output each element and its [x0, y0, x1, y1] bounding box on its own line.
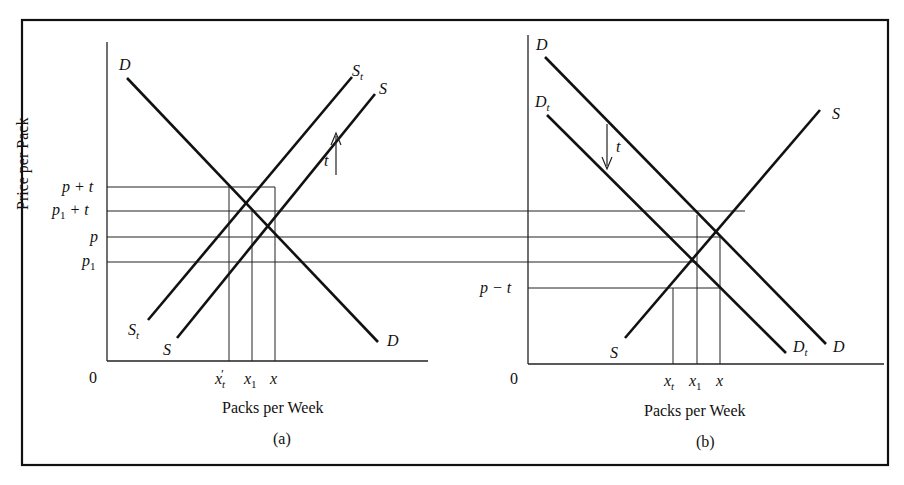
- panel-b-axes: [528, 35, 884, 364]
- label-base: S: [352, 62, 360, 79]
- curve-label-s-bottom-a: S: [163, 342, 171, 358]
- curve-label-d-top-a: D: [119, 57, 131, 73]
- y-axis-label: Price per Pack: [14, 118, 32, 210]
- curve-label-dt-bottom: Dt: [793, 339, 808, 358]
- figure-frame: [22, 20, 888, 465]
- panel-a-quantity-guides: [229, 187, 275, 361]
- label-sub: t: [360, 70, 363, 82]
- origin-label-a: 0: [89, 370, 97, 386]
- tick-base: p: [90, 228, 98, 245]
- label-base: D: [793, 338, 805, 355]
- quantity-tick-x-b: x: [716, 373, 723, 389]
- curve-label-d-top-b: D: [536, 37, 548, 53]
- tick-suffix: − t: [488, 279, 511, 296]
- price-tick-p1: p1: [82, 253, 96, 272]
- curve-label-s-top-b: S: [832, 106, 840, 122]
- panel-caption-b: (b): [696, 434, 715, 450]
- tick-base: p: [480, 279, 488, 296]
- quantity-tick-x1-b: x1: [689, 373, 702, 392]
- tax-shift-label-b: t: [616, 139, 620, 155]
- tick-base: p: [62, 178, 70, 195]
- quantity-tick-x: x: [270, 371, 277, 387]
- x-axis-label-a: Packs per Week: [222, 400, 324, 416]
- tick-prime: ′: [220, 366, 223, 381]
- supply-curve-b: [625, 110, 820, 338]
- price-tick-p-minus-t: p − t: [480, 280, 511, 296]
- panel-caption-a: (a): [273, 431, 291, 447]
- tick-sub: 1: [251, 378, 257, 390]
- label-sub: t: [136, 329, 139, 341]
- x-axis-label-b: Packs per Week: [644, 403, 746, 419]
- label-sub: t: [805, 346, 808, 358]
- curve-label-dt-top: Dt: [535, 94, 550, 113]
- price-tick-p-plus-t: p + t: [62, 179, 93, 195]
- tick-suffix: + t: [70, 178, 93, 195]
- tick-base: p: [82, 252, 90, 269]
- label-base: D: [535, 93, 547, 110]
- quantity-tick-xt: xt: [664, 373, 674, 392]
- tick-base: x: [270, 370, 277, 387]
- tick-base: x: [716, 372, 723, 389]
- taxed-demand-curve: [547, 115, 786, 353]
- curve-label-st-top: St: [352, 63, 363, 82]
- tick-sub: 1: [90, 260, 96, 272]
- tick-suffix: + t: [66, 201, 89, 218]
- figure-drawing: [0, 0, 904, 485]
- tax-shift-label-a: t: [324, 153, 328, 169]
- curve-label-d-bottom-b: D: [833, 339, 845, 355]
- tax-shift-arrow-down-icon: [602, 124, 612, 169]
- curve-label-d-bottom-a: D: [387, 333, 399, 349]
- excise-tax-figure: Price per Pack p + t p1 + t p p1 0 xt′ x…: [0, 0, 904, 485]
- quantity-tick-x1: x1: [244, 371, 257, 390]
- quantity-tick-xt-prime: xt′: [215, 371, 228, 390]
- tick-sub: 1: [696, 380, 702, 392]
- tick-sub: t: [671, 380, 674, 392]
- curve-label-s-bottom-b: S: [610, 345, 618, 361]
- price-tick-p: p: [90, 229, 98, 245]
- label-base: S: [128, 321, 136, 338]
- panel-b-curves: [545, 57, 826, 353]
- supply-curve-a: [177, 94, 375, 338]
- price-tick-p1-plus-t: p1 + t: [52, 202, 89, 221]
- curve-label-st-bottom: St: [128, 322, 139, 341]
- price-guide-lines: [107, 187, 745, 288]
- tick-base: p: [52, 201, 60, 218]
- origin-label-b: 0: [510, 371, 518, 387]
- demand-curve-b: [545, 57, 826, 344]
- label-sub: t: [547, 101, 550, 113]
- curve-label-s-top-a: S: [379, 81, 387, 97]
